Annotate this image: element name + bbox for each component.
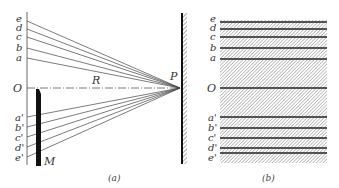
fringe-pattern <box>220 20 327 163</box>
b-label-O: O <box>207 82 216 95</box>
b-label-e-prime: e' <box>208 152 217 163</box>
diagram-canvas: e d c b a O R P a' b' c' d' e' M (a) <box>0 0 339 188</box>
b-label-a: a <box>210 52 216 63</box>
label-a: a <box>16 52 22 63</box>
label-O: O <box>13 82 22 95</box>
b-label-c: c <box>210 31 216 42</box>
label-c: c <box>16 31 22 42</box>
label-e-prime: e' <box>15 152 24 163</box>
lower-rays <box>27 88 180 157</box>
figure-a: e d c b a O R P a' b' c' d' e' M (a) <box>13 12 187 183</box>
label-R: R <box>91 74 100 87</box>
label-M: M <box>43 155 56 168</box>
mirror-hatch <box>183 13 187 164</box>
caption-a: (a) <box>108 173 121 183</box>
label-P: P <box>169 70 178 83</box>
mirror-M <box>36 89 41 166</box>
upper-rays <box>27 21 180 88</box>
figure-b: e d c b a O a' b' c' d' e' (b) <box>207 13 327 183</box>
caption-b: (b) <box>262 173 275 183</box>
